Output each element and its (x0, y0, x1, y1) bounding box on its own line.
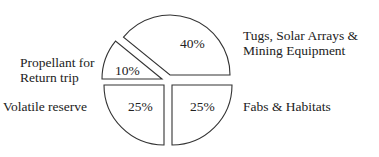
label-propellant: Propellant for Return trip (20, 55, 95, 85)
label-tugs: Tugs, Solar Arrays & Mining Equipment (243, 28, 358, 58)
slice-fabs (172, 85, 232, 145)
slice-value-propellant: 10% (115, 63, 140, 78)
label-volatile: Volatile reserve (3, 99, 87, 114)
label-propellant-line1: Propellant for (20, 55, 95, 70)
label-fabs: Fabs & Habitats (243, 99, 331, 114)
label-tugs-line2: Mining Equipment (243, 43, 358, 58)
label-tugs-line1: Tugs, Solar Arrays & (243, 28, 358, 43)
slice-value-fabs: 25% (190, 99, 215, 114)
slice-volatile (104, 85, 164, 145)
label-propellant-line2: Return trip (20, 70, 95, 85)
slice-value-volatile: 25% (128, 99, 153, 114)
slice-value-tugs: 40% (180, 36, 205, 51)
